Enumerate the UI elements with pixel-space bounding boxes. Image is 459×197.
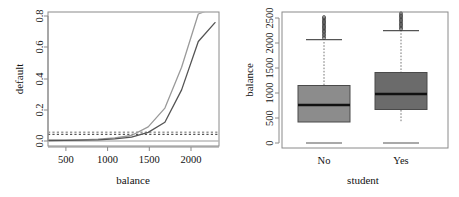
chart-panel-default-vs-balance: 0.0 0.2 0.4 0.6 0.8 default [0,0,230,197]
right-ytick-2500: 2500 [264,8,275,29]
left-xtick-1500: 1500 [139,154,160,165]
chart-panel-balance-by-student: 0 500 1000 1500 2000 2500 balance [229,0,459,197]
boxplot-no [298,16,350,144]
right-chart-svg: 0 500 1000 1500 2000 2500 balance [229,0,459,197]
left-xtick-1000: 1000 [97,154,118,165]
left-xtick-2000: 2000 [181,154,202,165]
boxplot-yes-outliers [400,12,403,31]
right-ytick-1000: 1000 [264,83,275,104]
boxplot-yes-box [375,73,427,110]
left-ytick-0: 0.0 [34,134,45,147]
left-data-area [48,8,219,141]
figure-root: 0.0 0.2 0.4 0.6 0.8 default [0,0,459,197]
right-ytick-500: 500 [264,110,275,126]
left-ytick-4: 0.8 [34,9,45,22]
left-x-axis-label: balance [116,174,150,186]
boxplot-no-box [298,86,350,123]
boxplot-no-outliers [323,16,326,40]
right-ytick-0: 0 [264,140,275,145]
left-plot-frame [48,12,219,146]
left-x-axis [48,147,219,151]
left-chart-svg: 0.0 0.2 0.4 0.6 0.8 default [0,0,230,197]
left-xtick-500: 500 [58,154,74,165]
left-ytick-2: 0.4 [34,72,45,86]
right-y-axis [275,18,279,143]
left-y-axis-label: default [13,64,25,95]
left-ytick-3: 0.6 [34,40,45,53]
right-ytick-1500: 1500 [264,58,275,79]
curve-student-default-rate [48,8,215,141]
right-y-axis-label: balance [243,63,255,97]
right-ytick-2000: 2000 [264,33,275,54]
right-x-axis-label: student [347,174,379,186]
right-xtick-no: No [318,155,331,166]
right-xtick-yes: Yes [393,155,408,166]
boxplot-yes [375,12,427,143]
left-ytick-1: 0.2 [34,103,45,116]
